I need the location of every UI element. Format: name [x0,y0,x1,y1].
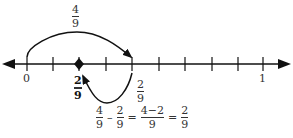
numerator: 4 [96,105,103,116]
numerator: 4 [72,4,79,15]
denominator: 9 [117,119,124,130]
backward-jump-label: 2 9 [137,79,144,104]
backward-jump-arc [83,73,132,103]
denominator: 9 [74,90,82,101]
marked-point-label: 2 9 [74,75,82,101]
forward-jump-arc [27,32,131,57]
left-arrow-icon [2,59,15,69]
denominator: 9 [137,93,144,104]
numerator: 2 [117,105,124,116]
right-arrow-icon [278,59,291,69]
numerator: 2 [181,105,188,116]
equation-term-1: 4 9 [96,105,103,130]
equals-sign: = [167,111,178,124]
equation-term-2: 2 9 [117,105,124,130]
equals-sign: = [127,111,138,124]
denominator: 9 [96,119,103,130]
equation-term-3: 4−2 9 [141,105,164,130]
numerator: 4−2 [141,105,164,116]
denominator: 9 [181,119,188,130]
tick-label-zero: 0 [23,72,30,85]
numerator: 2 [137,79,144,90]
minus-sign: – [106,111,114,124]
tick-label-one: 1 [259,72,266,85]
denominator: 9 [149,119,156,130]
denominator: 9 [72,18,79,29]
forward-jump-label: 4 9 [72,4,79,29]
equation: 4 9 – 2 9 = 4−2 9 = 2 9 [96,105,188,130]
numerator: 2 [74,75,82,86]
point-marker [74,58,84,70]
equation-result: 2 9 [181,105,188,130]
